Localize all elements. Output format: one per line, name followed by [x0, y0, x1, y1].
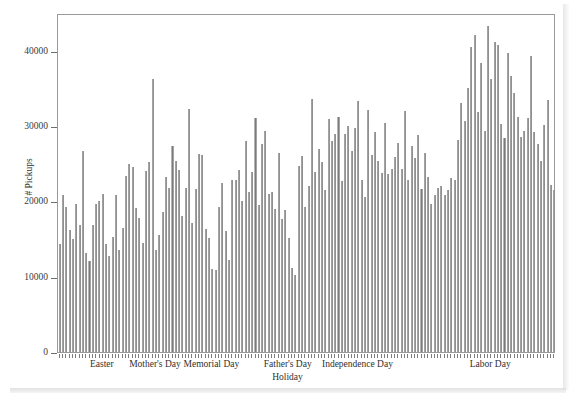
x-axis-tick	[235, 354, 236, 358]
bar	[354, 128, 356, 352]
bar	[371, 155, 373, 352]
bar	[148, 162, 150, 352]
x-axis-tick	[510, 354, 511, 358]
bar	[394, 157, 396, 352]
x-axis-tick	[152, 354, 153, 358]
x-axis-tick	[377, 354, 378, 358]
x-axis-tick-label: Memorial Day	[184, 359, 240, 369]
y-axis-tick-label: 30000	[0, 121, 48, 131]
bar	[59, 244, 61, 352]
x-axis-tick	[341, 354, 342, 358]
x-axis-tick	[477, 354, 478, 358]
bar	[271, 192, 273, 352]
x-axis-tick	[467, 354, 468, 358]
x-axis-tick	[494, 354, 495, 358]
bar	[537, 144, 539, 352]
bar	[62, 195, 64, 352]
x-axis-tick	[308, 354, 309, 358]
bar	[301, 156, 303, 352]
bar	[364, 197, 366, 352]
bar	[245, 141, 247, 352]
x-axis-tick	[82, 354, 83, 358]
bar	[341, 181, 343, 352]
x-axis-tick	[265, 354, 266, 358]
bar	[162, 212, 164, 352]
y-axis-tick	[51, 353, 57, 354]
bar	[467, 88, 469, 352]
x-axis-tick	[298, 354, 299, 358]
x-axis-tick	[437, 354, 438, 358]
x-axis-tick	[411, 354, 412, 358]
page-shadow-bottom	[10, 388, 566, 393]
bar	[510, 76, 512, 352]
x-axis-tick	[527, 354, 528, 358]
x-axis-tick	[547, 354, 548, 358]
x-axis-tick	[454, 354, 455, 358]
x-axis-tick	[122, 354, 123, 358]
bar	[228, 260, 230, 352]
bar	[547, 100, 549, 352]
bar	[92, 225, 94, 352]
x-axis-tick	[182, 354, 183, 358]
x-axis-tick	[198, 354, 199, 358]
bar	[374, 132, 376, 352]
bar	[72, 239, 74, 352]
bar	[155, 250, 157, 352]
bar	[191, 223, 193, 352]
bar	[102, 194, 104, 352]
x-axis-tick	[490, 354, 491, 358]
x-axis-tick	[208, 354, 209, 358]
x-axis-tick	[288, 354, 289, 358]
x-axis-tick	[367, 354, 368, 358]
bar	[311, 99, 313, 352]
bar	[178, 170, 180, 352]
bar	[241, 201, 243, 352]
x-axis-tick	[155, 354, 156, 358]
bar	[314, 172, 316, 352]
x-axis-tick	[168, 354, 169, 358]
x-axis-tick	[338, 354, 339, 358]
y-axis-tick-label: 10000	[0, 272, 48, 282]
bar	[291, 268, 293, 352]
x-axis-tick	[105, 354, 106, 358]
x-axis-tick	[188, 354, 189, 358]
x-axis-tick	[205, 354, 206, 358]
bar	[404, 111, 406, 352]
x-axis-tick	[354, 354, 355, 358]
bar	[278, 153, 280, 352]
x-axis-tick	[331, 354, 332, 358]
x-axis-tick	[221, 354, 222, 358]
bar	[447, 190, 449, 352]
x-axis-tick	[387, 354, 388, 358]
bar	[69, 230, 71, 352]
bar	[205, 229, 207, 352]
bar	[460, 103, 462, 352]
bar	[264, 131, 266, 352]
x-axis-tick	[324, 354, 325, 358]
x-axis-tick	[225, 354, 226, 358]
x-axis-tick	[148, 354, 149, 358]
x-axis-tick	[261, 354, 262, 358]
x-axis-tick	[497, 354, 498, 358]
x-axis-tick	[201, 354, 202, 358]
x-axis-tick	[62, 354, 63, 358]
bar	[351, 151, 353, 352]
bar	[384, 123, 386, 352]
bar	[397, 143, 399, 352]
x-axis-tick	[59, 354, 60, 358]
x-axis-tick	[404, 354, 405, 358]
x-axis-tick	[255, 354, 256, 358]
x-axis-tick	[484, 354, 485, 358]
bar	[444, 195, 446, 352]
x-axis-tick	[427, 354, 428, 358]
x-axis-tick-label: Independence Day	[322, 359, 393, 369]
bar	[281, 219, 283, 352]
bar	[298, 166, 300, 352]
x-axis-tick	[284, 354, 285, 358]
x-axis-tick	[128, 354, 129, 358]
x-axis-tick	[480, 354, 481, 358]
x-axis-tick	[397, 354, 398, 358]
bar	[520, 137, 522, 352]
x-axis-tick	[334, 354, 335, 358]
bar	[95, 204, 97, 352]
